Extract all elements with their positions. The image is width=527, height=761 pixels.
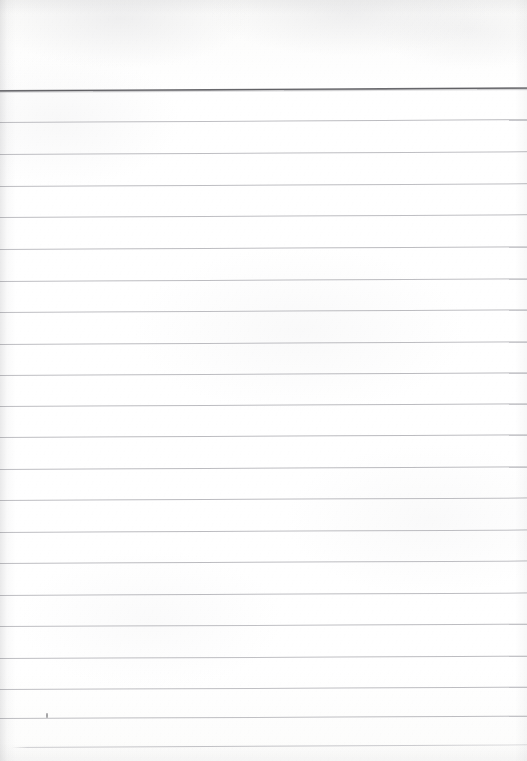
scan-artifacts-layer [0, 0, 527, 761]
scan-speck-icon [46, 713, 48, 718]
notepad-page: Blank Lined Notepad Page [0, 0, 527, 761]
